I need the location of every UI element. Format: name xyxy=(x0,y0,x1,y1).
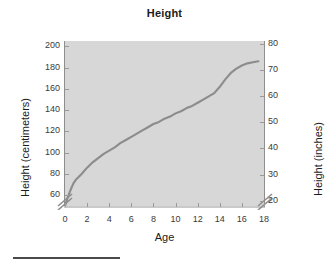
right-tick-label: 40 xyxy=(268,142,298,152)
right-tick-label: 20 xyxy=(268,195,298,205)
x-tick-label: 18 xyxy=(254,214,274,224)
left-tick-mark xyxy=(65,153,69,154)
plot-area xyxy=(65,41,264,206)
left-tick-mark xyxy=(65,89,69,90)
x-tick-label: 16 xyxy=(232,214,252,224)
right-tick-label: 80 xyxy=(268,38,298,48)
x-tick-label: 6 xyxy=(121,214,141,224)
height-data-line xyxy=(65,61,258,206)
bottom-axis-line xyxy=(64,206,265,208)
x-tick-label: 10 xyxy=(166,214,186,224)
left-tick-mark xyxy=(65,195,69,196)
left-tick-label: 140 xyxy=(26,104,60,114)
x-axis-tick-labels: 024681012141618 xyxy=(0,214,329,228)
x-axis-title: Age xyxy=(65,231,264,243)
x-tick-mark xyxy=(65,203,66,207)
x-tick-mark xyxy=(176,203,177,207)
right-tick-label: 50 xyxy=(268,116,298,126)
left-axis-line xyxy=(64,41,65,206)
right-tick-mark xyxy=(260,175,264,176)
left-tick-mark xyxy=(65,131,69,132)
x-tick-label: 2 xyxy=(77,214,97,224)
x-tick-mark xyxy=(109,203,110,207)
x-tick-mark xyxy=(153,203,154,207)
left-tick-label: 160 xyxy=(26,83,60,93)
x-tick-label: 0 xyxy=(55,214,75,224)
left-tick-mark xyxy=(65,174,69,175)
right-axis-line xyxy=(264,41,265,206)
right-tick-mark xyxy=(260,201,264,202)
left-tick-mark xyxy=(65,68,69,69)
left-tick-label: 80 xyxy=(26,168,60,178)
growth-curve-svg xyxy=(65,41,264,206)
right-tick-mark xyxy=(260,148,264,149)
x-tick-mark xyxy=(87,203,88,207)
right-tick-mark xyxy=(260,96,264,97)
right-tick-mark xyxy=(260,44,264,45)
y-axis-title-right: Height (inches) xyxy=(312,122,324,196)
left-tick-label: 60 xyxy=(26,189,60,199)
right-tick-mark xyxy=(260,122,264,123)
chart-figure: Height 6080100120140160180200 2030405060… xyxy=(0,0,329,267)
right-tick-label: 30 xyxy=(268,169,298,179)
y-axis-title-left: Height (centimeters) xyxy=(19,98,31,197)
x-tick-mark xyxy=(131,203,132,207)
right-tick-label: 60 xyxy=(268,90,298,100)
x-tick-label: 12 xyxy=(188,214,208,224)
x-tick-mark xyxy=(264,203,265,207)
left-tick-label: 100 xyxy=(26,147,60,157)
x-tick-label: 8 xyxy=(143,214,163,224)
x-tick-mark xyxy=(198,203,199,207)
x-tick-mark xyxy=(242,203,243,207)
x-tick-label: 4 xyxy=(99,214,119,224)
x-tick-label: 14 xyxy=(210,214,230,224)
left-tick-label: 200 xyxy=(26,40,60,50)
right-tick-label: 70 xyxy=(268,64,298,74)
footer-rule xyxy=(13,257,120,259)
right-tick-mark xyxy=(260,70,264,71)
left-tick-label: 120 xyxy=(26,125,60,135)
left-tick-mark xyxy=(65,110,69,111)
left-tick-label: 180 xyxy=(26,62,60,72)
left-tick-mark xyxy=(65,46,69,47)
x-tick-mark xyxy=(220,203,221,207)
